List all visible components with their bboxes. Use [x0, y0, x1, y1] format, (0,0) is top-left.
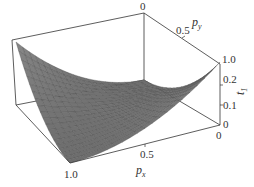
t1-tick-0.2: 0.2 [223, 73, 237, 85]
py-axis-label: py [191, 15, 202, 31]
t1-tick-0: 0 [223, 118, 229, 130]
px-tick-0.5: 0.5 [140, 148, 154, 160]
px-tick-0: 0 [216, 129, 222, 141]
px-axis-label: px [135, 163, 146, 179]
py-tick-1.0: 1.0 [222, 53, 236, 65]
py-tick-0: 0 [140, 0, 146, 12]
surface-plot: 0 0.5 py 1.0 0.2 0.1 0 t1 0 0.5 px 1.0 [0, 0, 254, 187]
t1-tick-0.1: 0.1 [223, 99, 237, 111]
py-tick-0.5: 0.5 [176, 24, 190, 36]
px-tick-1.0: 1.0 [64, 168, 78, 180]
t1-axis-label: t1 [233, 88, 249, 95]
